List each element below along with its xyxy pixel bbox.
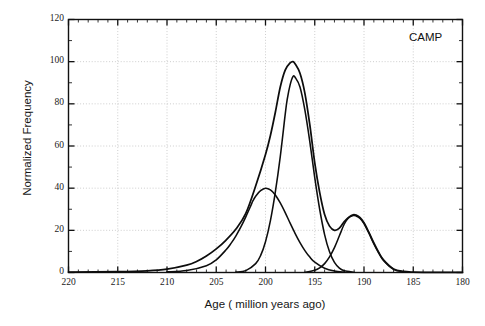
x-tick-label: 185 bbox=[395, 277, 431, 287]
figure-top-caption bbox=[120, 1, 380, 10]
figure-container: Normalized Frequency Age ( million years… bbox=[0, 0, 485, 326]
x-axis-title: Age ( million years ago) bbox=[68, 298, 462, 310]
y-tick-label: 40 bbox=[38, 182, 64, 192]
x-axis-tick-labels: 220215210205200195190185180 bbox=[0, 277, 485, 291]
y-tick-label: 100 bbox=[38, 55, 64, 65]
y-axis-title: Normalized Frequency bbox=[21, 48, 33, 228]
x-tick-label: 180 bbox=[445, 277, 481, 287]
x-tick-label: 215 bbox=[100, 277, 136, 287]
figure-bottom-caption bbox=[14, 318, 444, 326]
y-tick-label: 120 bbox=[38, 13, 64, 23]
y-tick-label: 60 bbox=[38, 140, 64, 150]
x-tick-label: 195 bbox=[297, 277, 333, 287]
gridlines bbox=[69, 20, 463, 273]
y-tick-label: 0 bbox=[38, 266, 64, 276]
curve-2 bbox=[305, 215, 404, 272]
y-tick-label: 20 bbox=[38, 224, 64, 234]
y-tick-label: 80 bbox=[38, 97, 64, 107]
x-tick-label: 205 bbox=[198, 277, 234, 287]
x-tick-label: 200 bbox=[248, 277, 284, 287]
data-curves bbox=[69, 62, 463, 273]
x-tick-label: 210 bbox=[149, 277, 185, 287]
x-tick-label: 190 bbox=[346, 277, 382, 287]
plot-annotation-camp: CAMP bbox=[409, 31, 442, 43]
x-tick-label: 220 bbox=[51, 277, 87, 287]
